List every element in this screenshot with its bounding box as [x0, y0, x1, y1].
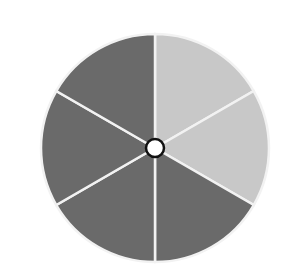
- center-hub: [146, 139, 164, 157]
- sector-wheel: [0, 0, 294, 267]
